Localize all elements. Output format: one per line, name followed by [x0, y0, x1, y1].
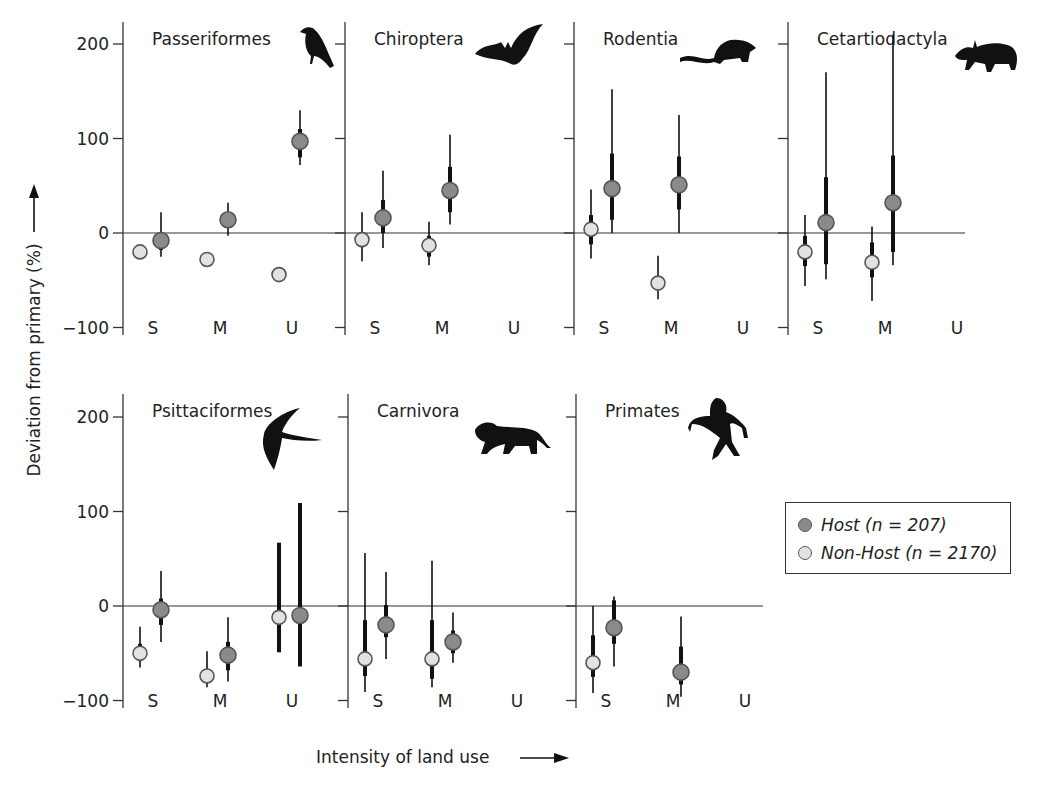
point-marker: [375, 210, 391, 226]
legend: Host (n = 207) Non-Host (n = 2170): [785, 502, 1011, 574]
legend-item-non-host: Non-Host (n = 2170): [798, 540, 998, 566]
y-tick-label: 100: [77, 129, 109, 149]
point-marker: [200, 669, 214, 683]
non-host-point: [422, 222, 436, 265]
x-category-label: M: [213, 318, 228, 338]
point-marker: [153, 233, 169, 249]
point-marker: [586, 656, 600, 670]
host-marker-icon: [798, 518, 812, 532]
point-marker: [865, 255, 879, 269]
y-tick-label: −100: [62, 318, 109, 338]
non-host-point: [425, 561, 439, 688]
host-point: [153, 571, 169, 642]
legend-host-label: Host (n = 207): [821, 515, 947, 535]
y-tick-label: 200: [77, 407, 109, 427]
panel-title: Primates: [605, 401, 680, 421]
panel-title: Chiroptera: [374, 29, 464, 49]
non-host-point: [586, 606, 600, 693]
x-category-label: M: [666, 691, 681, 711]
y-tick-label: 100: [77, 502, 109, 522]
point-marker: [798, 245, 812, 259]
host-point: [375, 171, 391, 248]
non-host-point: [133, 245, 147, 259]
non-host-point: [798, 215, 812, 286]
point-marker: [442, 182, 458, 198]
host-point: [445, 613, 461, 663]
non-host-point: [272, 543, 286, 653]
host-point: [818, 72, 834, 279]
point-marker: [584, 222, 598, 236]
bat-silhouette-icon: [475, 24, 543, 65]
point-marker: [422, 238, 436, 252]
host-point: [671, 115, 687, 233]
y-axis-title: Deviation from primary (%): [24, 243, 44, 476]
panel-psittaciformes: 2001000−100SMUPsittaciformes: [62, 394, 322, 711]
non-host-point: [272, 268, 286, 282]
primate-silhouette-icon: [688, 398, 748, 460]
lion-silhouette-icon: [475, 423, 551, 454]
point-marker: [651, 276, 665, 290]
panel-chiroptera: SMUChiroptera: [335, 22, 543, 338]
up-arrow-icon: [29, 184, 39, 198]
panel-cetartiodactyla: SMUCetartiodactyla: [778, 22, 1017, 338]
host-point: [378, 572, 394, 659]
non-host-point: [358, 553, 372, 692]
x-category-label: U: [951, 318, 963, 338]
host-point: [885, 35, 901, 266]
point-marker: [358, 652, 372, 666]
point-marker: [292, 607, 308, 623]
point-marker: [200, 252, 214, 266]
point-marker: [133, 646, 147, 660]
point-marker: [153, 602, 169, 618]
x-category-label: M: [664, 318, 679, 338]
legend-item-host: Host (n = 207): [798, 512, 947, 538]
rat-silhouette-icon: [680, 40, 756, 64]
x-category-label: S: [370, 318, 381, 338]
faceted-dot-chart: Deviation from primary (%)Intensity of l…: [0, 0, 1042, 797]
boar-silhouette-icon: [955, 40, 1017, 72]
x-category-label: U: [286, 318, 298, 338]
host-point: [442, 135, 458, 225]
non-host-point: [865, 226, 879, 301]
point-marker: [425, 652, 439, 666]
point-marker: [133, 245, 147, 259]
x-category-label: U: [508, 318, 520, 338]
y-tick-label: −100: [62, 691, 109, 711]
x-category-label: M: [435, 318, 450, 338]
right-arrow-icon: [554, 753, 569, 763]
x-category-label: S: [148, 318, 159, 338]
host-point: [153, 212, 169, 256]
x-category-label: M: [213, 691, 228, 711]
host-point: [673, 616, 689, 696]
point-marker: [378, 617, 394, 633]
host-point: [606, 597, 622, 667]
x-category-label: S: [599, 318, 610, 338]
y-tick-label: 0: [98, 596, 109, 616]
crow-silhouette-icon: [300, 27, 334, 68]
point-marker: [818, 215, 834, 231]
panel-title: Cetartiodactyla: [817, 29, 948, 49]
point-marker: [673, 664, 689, 680]
non-host-marker-icon: [798, 546, 812, 560]
point-marker: [606, 620, 622, 636]
point-marker: [355, 233, 369, 247]
point-marker: [885, 195, 901, 211]
panel-title: Passeriformes: [152, 29, 271, 49]
point-marker: [671, 177, 687, 193]
point-marker: [220, 212, 236, 228]
point-marker: [272, 610, 286, 624]
non-host-point: [133, 627, 147, 668]
non-host-point: [200, 651, 214, 687]
point-marker: [220, 647, 236, 663]
non-host-point: [355, 212, 369, 261]
host-point: [292, 110, 308, 165]
panel-passeriformes: 2001000−100SMUPasseriformes: [62, 22, 334, 338]
x-category-label: M: [878, 318, 893, 338]
host-point: [220, 617, 236, 681]
x-category-label: M: [438, 691, 453, 711]
non-host-point: [651, 256, 665, 299]
y-tick-label: 200: [77, 34, 109, 54]
x-category-label: U: [511, 691, 523, 711]
x-category-label: U: [737, 318, 749, 338]
x-category-label: U: [739, 691, 751, 711]
